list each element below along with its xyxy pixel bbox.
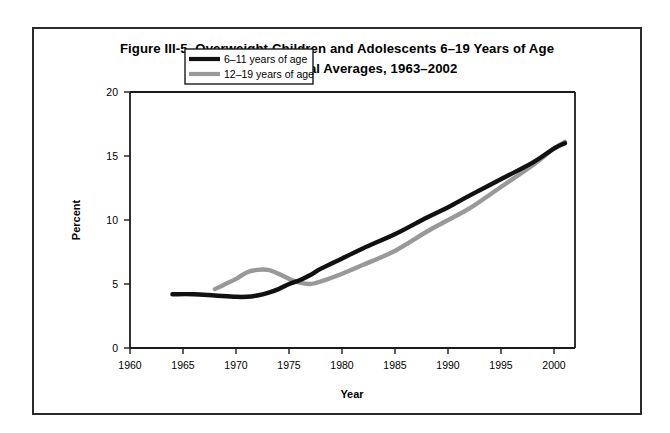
series-group [172, 142, 564, 297]
x-tick-label-1965: 1965 [171, 359, 195, 371]
x-tick-label-1960: 1960 [118, 359, 142, 371]
x-axis-ticks: 1960 1965 1970 1975 1980 1985 1990 1995 … [118, 348, 566, 371]
plot-axes [130, 92, 575, 348]
x-tick-label-1975: 1975 [277, 359, 301, 371]
x-tick-label-1970: 1970 [224, 359, 248, 371]
chart-legend: 6–11 years of age 12–19 years of age [185, 49, 314, 84]
line-chart: 0 5 10 15 20 1960 1965 1970 1975 1980 19… [34, 29, 640, 413]
x-tick-label-1990: 1990 [436, 359, 460, 371]
y-tick-label-5: 5 [112, 278, 118, 290]
y-tick-label-0: 0 [112, 342, 118, 354]
x-tick-label-1985: 1985 [383, 359, 407, 371]
figure-frame: Figure III-5. Overweight Children and Ad… [32, 27, 642, 415]
x-tick-label-2000: 2000 [542, 359, 566, 371]
y-axis-title: Percent [70, 199, 82, 240]
legend-label-6-11-years: 6–11 years of age [224, 53, 307, 65]
x-tick-label-1995: 1995 [489, 359, 513, 371]
series-line-6-11-years [172, 143, 564, 297]
x-axis-title: Year [340, 388, 364, 400]
y-axis-ticks: 0 5 10 15 20 [106, 86, 130, 354]
series-line-12-19-years [215, 142, 565, 289]
y-tick-label-20: 20 [106, 86, 118, 98]
x-tick-label-1980: 1980 [330, 359, 354, 371]
legend-label-12-19-years: 12–19 years of age [224, 68, 314, 80]
y-tick-label-15: 15 [106, 150, 118, 162]
y-tick-label-10: 10 [106, 214, 118, 226]
